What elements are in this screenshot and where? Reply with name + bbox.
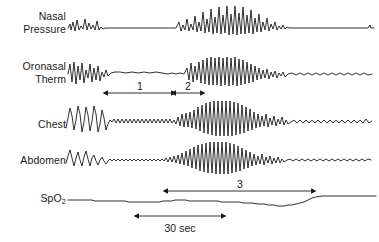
interval-label-3: 3 <box>234 178 246 190</box>
trace-spo2 <box>68 196 376 206</box>
polysomnography-figure: Nasal Pressure Oronasal Therm Chest Abdo… <box>0 0 379 242</box>
trace-nasal-pressure <box>68 6 374 35</box>
interval-label-1: 1 <box>134 80 146 92</box>
interval-label-2: 2 <box>182 80 194 92</box>
trace-abdomen <box>66 142 371 174</box>
time-scale-label: 30 sec <box>130 222 230 234</box>
trace-chest <box>66 101 372 136</box>
trace-oronasal-therm <box>68 57 372 86</box>
waveform-canvas <box>0 0 379 242</box>
